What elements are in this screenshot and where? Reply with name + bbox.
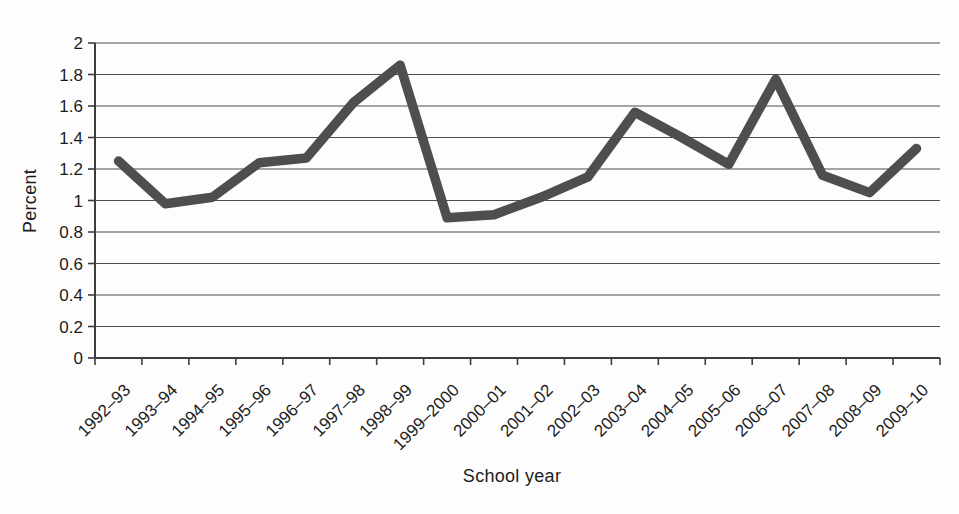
y-tick-label: 1.6	[59, 97, 83, 116]
y-tick-label: 1.4	[59, 129, 83, 148]
x-tick-labels: 1992–931993–941994–951995–961996–971997–…	[74, 380, 932, 454]
line-chart-canvas: 00.20.40.60.811.21.41.61.82 1992–931993–…	[0, 0, 959, 514]
y-tick-label: 0	[74, 349, 83, 368]
y-tick-label: 2	[74, 34, 83, 53]
y-tick-label: 1	[74, 192, 83, 211]
y-tick-label: 0.8	[59, 223, 83, 242]
y-tick-label: 1.8	[59, 66, 83, 85]
x-tick-label: 2009–10	[872, 380, 932, 440]
data-line	[119, 65, 917, 218]
y-tick-label: 0.2	[59, 318, 83, 337]
y-tick-labels: 00.20.40.60.811.21.41.61.82	[59, 34, 83, 368]
y-tick-label: 0.4	[59, 286, 83, 305]
x-axis-title: School year	[463, 466, 561, 487]
chart-figure: 00.20.40.60.811.21.41.61.82 1992–931993–…	[0, 0, 959, 514]
y-tick-label: 1.2	[59, 160, 83, 179]
y-axis-title: Percent	[20, 169, 41, 233]
data-series	[119, 65, 917, 218]
y-tick-label: 0.6	[59, 255, 83, 274]
